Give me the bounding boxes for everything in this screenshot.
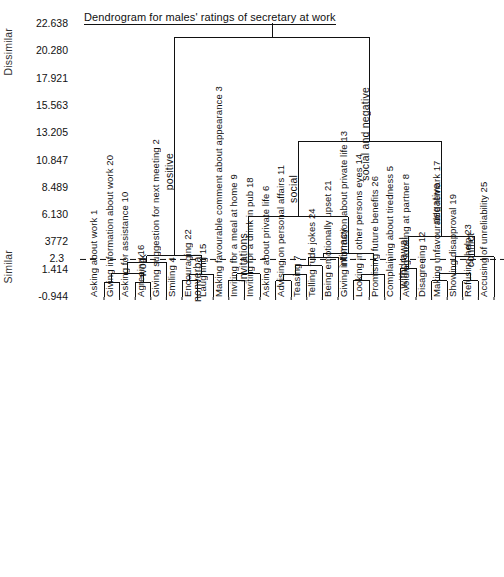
leaf-label: Asking about work 1: [88, 210, 99, 297]
cluster-label: social: [287, 175, 299, 203]
cluster-label: conflict: [464, 233, 476, 267]
leaf-label: Giving information about private life 13: [338, 131, 349, 297]
leaf-label: Teasing 7: [291, 255, 302, 297]
leaf-labels: Asking about work 1Giving information ab…: [76, 297, 504, 577]
y-tick-label: -0.944: [38, 291, 68, 301]
leaf-label: Being emotionally upset 21: [322, 180, 333, 297]
leaf-label: Advising on personal affairs 11: [275, 165, 286, 297]
cluster-label: negative: [430, 183, 442, 224]
y-tick-label: 1.414: [42, 264, 68, 274]
y-tick-label: 20.280: [36, 45, 68, 55]
leaf-label: Giving suggestion for next meeting 2: [150, 139, 161, 297]
leaf-label: Accusing of unreliability 25: [478, 182, 489, 297]
cluster-label: invitations: [237, 233, 249, 282]
y-tick-label: 8.489: [42, 182, 68, 192]
leaf-label: Asking for assistance 10: [119, 192, 130, 297]
leaf-label: Telling rude jokes 24: [306, 208, 317, 297]
leaf-label: Giving information about work 20: [104, 155, 115, 297]
cluster-label: intimacy: [337, 228, 349, 268]
leaf-label: Disagreeing 12: [416, 232, 427, 297]
y-tick-label: 15.563: [36, 100, 68, 110]
cluster-label: social and negative: [359, 87, 371, 181]
leaf-label: Making favourable comment about appearan…: [213, 86, 224, 297]
cluster-label: withdrawal: [397, 237, 409, 289]
leaf-label: Making unfavourable remark 17: [431, 161, 442, 298]
cluster-label: work: [136, 254, 148, 277]
y-tick-label: 6.130: [42, 209, 68, 219]
leaf-label: Complaining about tiredness 5: [384, 166, 395, 297]
cluster-label: positive: [163, 153, 175, 190]
dendrogram-figure: Dissimilar Similar 22.63820.28017.92115.…: [0, 0, 504, 577]
y-tick-label: 22.638: [36, 18, 68, 28]
cluster-label: nonverbal: [191, 254, 203, 302]
y-tick-label: 2.3: [49, 253, 64, 263]
y-tick-label: 13.205: [36, 127, 68, 137]
leaf-label: Promising future benefits 26: [369, 176, 380, 297]
leaf-label: Smiling 4: [166, 257, 177, 297]
y-tick-label: 17.921: [36, 73, 68, 83]
y-tick-label: 10.847: [36, 155, 68, 165]
leaf-label: Asking about private life 6: [260, 186, 271, 298]
y-axis-tick-labels: 22.63820.28017.92115.56313.20510.8478.48…: [0, 0, 72, 300]
y-tick-label: 3772: [45, 236, 68, 246]
leaf-label: Showing disapproval 19: [447, 194, 458, 297]
